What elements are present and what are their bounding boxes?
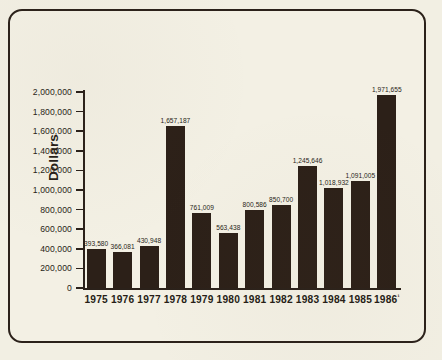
bar-group: 393,580 [87, 92, 106, 288]
bar[interactable] [272, 205, 291, 288]
bar-value-label: 761,009 [190, 204, 214, 211]
chart-figure: Dollars 0200,000400,000600,000800,0001,0… [0, 0, 442, 360]
x-axis-tick-label: 1984 [321, 294, 347, 305]
x-axis-tick-label: 1975 [83, 294, 109, 305]
bar-group: 563,438 [219, 92, 238, 288]
x-axis-tick-label: 1981 [242, 294, 268, 305]
bar-value-label: 800,586 [243, 201, 267, 208]
bar-value-label: 1,091,005 [345, 172, 375, 179]
bar-value-label: 563,438 [216, 224, 240, 231]
y-axis-tick-label: 400,000 [0, 244, 72, 254]
y-axis-tick-label: 1,000,000 [0, 185, 72, 195]
bar-group: 1,245,646 [298, 92, 317, 288]
bar-group: 761,009 [192, 92, 211, 288]
x-axis-tick-label: 1983 [294, 294, 320, 305]
y-axis-tick-label: 2,000,000 [0, 87, 72, 97]
x-axis-tick-label: 1977 [136, 294, 162, 305]
bar-group: 430,948 [140, 92, 159, 288]
y-axis-tick [76, 111, 83, 113]
x-axis-line [83, 288, 401, 290]
y-axis-tick-label: 200,000 [0, 263, 72, 273]
bar[interactable] [140, 246, 159, 288]
bar-value-label: 1,657,187 [161, 117, 191, 124]
y-axis-tick [76, 209, 83, 211]
x-axis-tick-label: 1985 [347, 294, 373, 305]
y-axis-tick [76, 228, 83, 230]
bar[interactable] [298, 166, 317, 288]
bar-group: 1,971,655 [377, 92, 396, 288]
bar-group: 1,091,005 [351, 92, 370, 288]
y-axis-tick-label: 600,000 [0, 224, 72, 234]
bar[interactable] [87, 249, 106, 288]
bar[interactable] [324, 188, 343, 288]
y-axis-tick [76, 91, 83, 93]
bar-group: 366,081 [113, 92, 132, 288]
bar[interactable] [113, 252, 132, 288]
y-axis-tick-label: 1,400,000 [0, 146, 72, 156]
x-axis-tick-label: 1978 [162, 294, 188, 305]
plot-area: 393,580366,081430,9481,657,187761,009563… [83, 92, 400, 288]
footnote-marker: ¹ [397, 294, 399, 300]
bar-group: 850,700 [272, 92, 291, 288]
y-axis-tick-label: 0 [0, 283, 72, 293]
bar[interactable] [192, 213, 211, 288]
x-axis-tick-label: 1986¹ [374, 294, 400, 305]
x-axis-tick-label: 1982 [268, 294, 294, 305]
bar[interactable] [166, 126, 185, 288]
bar-value-label: 1,018,932 [319, 179, 349, 186]
y-axis-tick [76, 248, 83, 250]
y-axis-tick [76, 287, 83, 289]
y-axis-tick-label: 1,800,000 [0, 107, 72, 117]
y-axis-tick [76, 189, 83, 191]
y-axis-tick [76, 150, 83, 152]
bar-value-label: 1,971,655 [372, 86, 402, 93]
y-axis-tick [76, 170, 83, 172]
bar-group: 1,018,932 [324, 92, 343, 288]
bar-group: 1,657,187 [166, 92, 185, 288]
bar-value-label: 430,948 [137, 237, 161, 244]
y-axis-tick [76, 130, 83, 132]
bar[interactable] [351, 181, 370, 288]
x-axis-tick-label: 1979 [189, 294, 215, 305]
bar[interactable] [245, 210, 264, 288]
y-axis-tick [76, 268, 83, 270]
x-axis-tick-label: 1976 [109, 294, 135, 305]
bar[interactable] [377, 95, 396, 288]
y-axis-tick-label: 1,600,000 [0, 126, 72, 136]
y-axis-tick-label: 800,000 [0, 205, 72, 215]
bar-value-label: 850,700 [269, 196, 293, 203]
x-axis-tick-label: 1980 [215, 294, 241, 305]
bar-value-label: 1,245,646 [293, 157, 323, 164]
bar-group: 800,586 [245, 92, 264, 288]
bar-value-label: 393,580 [84, 240, 108, 247]
y-axis-tick-label: 1,200,000 [0, 165, 72, 175]
bar[interactable] [219, 233, 238, 288]
bar-value-label: 366,081 [111, 243, 135, 250]
